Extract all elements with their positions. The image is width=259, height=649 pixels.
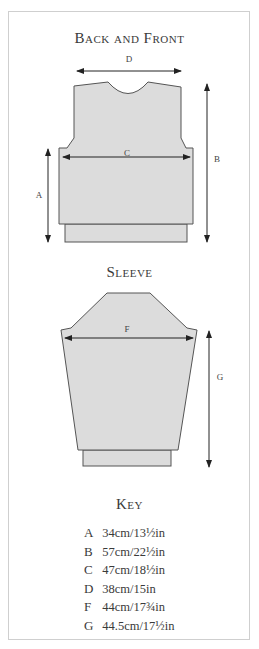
back-front-rib [65,224,187,242]
key-value: 38cm/15in [102,582,155,596]
key-item: B 57cm/22½in [84,543,174,562]
label-a: A [36,190,43,200]
key-value: 34cm/13½in [102,526,165,540]
key-item: D 38cm/15in [84,580,174,599]
key-letter: G [84,617,99,636]
key-value: 44cm/17¾in [102,600,165,614]
key-value: 44.5cm/17½in [102,619,174,633]
key-item: C 47cm/18½in [84,561,174,580]
key-letter: C [84,561,99,580]
label-g: G [217,372,224,382]
label-b: B [214,154,220,164]
label-c: C [124,148,130,158]
key-item: A 34cm/13½in [84,524,174,543]
label-d: D [126,54,133,64]
sleeve-body [61,293,197,450]
key-value: 47cm/18½in [102,563,165,577]
back-front-piece [59,82,193,242]
label-f: F [124,324,129,334]
key-letter: F [84,598,99,617]
key-item: F 44cm/17¾in [84,598,174,617]
key-list: A 34cm/13½in B 57cm/22½in C 47cm/18½in D… [84,524,174,635]
sleeve-cuff [83,450,171,466]
key-letter: A [84,524,99,543]
sleeve-piece [61,293,197,466]
key-item: G 44.5cm/17½in [84,617,174,636]
key-value: 57cm/22½in [102,545,165,559]
key-letter: B [84,543,99,562]
key-letter: D [84,580,99,599]
